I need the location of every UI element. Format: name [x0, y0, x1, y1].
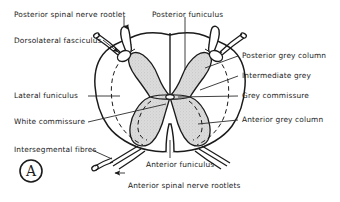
spinal-cord-illustration [0, 0, 340, 202]
figure-spinal-cord-cross-section: Posterior spinal nerve rootlet Posterior… [0, 0, 340, 202]
intersegmental-fibres-shape [91, 158, 113, 172]
label-anterior-grey-column: Anterior grey column [242, 115, 323, 124]
label-intersegmental-fibres: Intersegmental fibres [14, 145, 96, 154]
label-white-commissure: White commissure [14, 117, 85, 126]
label-lateral-funiculus: Lateral funiculus [14, 91, 78, 100]
label-dorsolateral-fasciculus: Dorsolateral fasciculus [14, 36, 102, 45]
panel-letter-badge: A [18, 158, 44, 184]
label-posterior-grey-column: Posterior grey column [242, 51, 326, 60]
label-anterior-spinal-nerve-rootlets: Anterior spinal nerve rootlets [128, 181, 241, 190]
label-anterior-funiculus: Anterior funiculus [146, 160, 214, 169]
panel-letter-text: A [25, 163, 37, 179]
label-posterior-spinal-nerve-rootlet: Posterior spinal nerve rootlet [14, 10, 126, 19]
label-grey-commissure: Grey commissure [242, 91, 309, 100]
label-intermediate-grey: Intermediate grey [242, 71, 311, 80]
label-posterior-funiculus: Posterior funiculus [152, 10, 223, 19]
